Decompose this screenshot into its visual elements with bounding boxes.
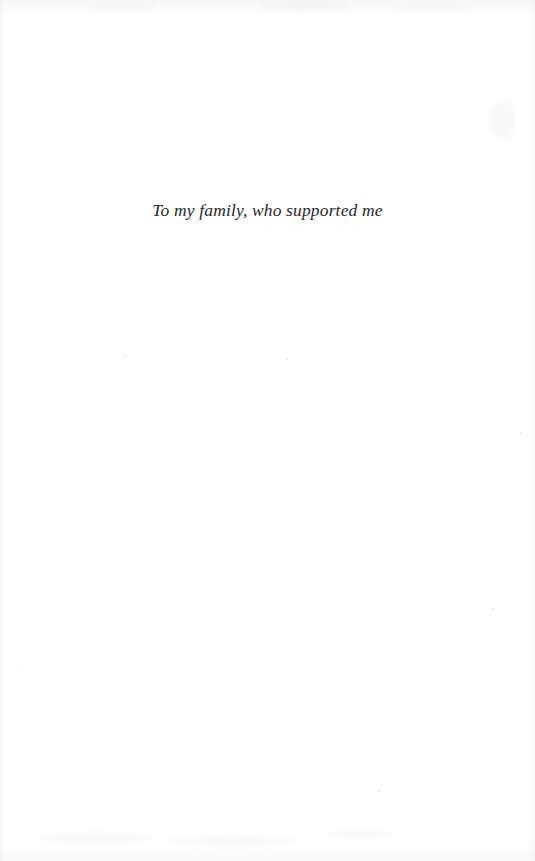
paper-speck: [492, 608, 494, 610]
paper-speck: [378, 790, 380, 792]
page-edge-shadow-top: [0, 0, 535, 14]
dedication-text: To my family, who supported me: [152, 198, 382, 222]
page-edge-shadow-right: [525, 0, 535, 861]
paper-smudge: [168, 836, 298, 846]
paper-smudge: [330, 830, 390, 839]
paper-speck: [520, 432, 522, 435]
paper-smudge: [258, 1, 354, 12]
paper-smudge: [40, 832, 150, 844]
dedication-block: To my family, who supported me: [0, 198, 535, 222]
paper-smudge: [488, 100, 516, 140]
paper-speck: [286, 358, 288, 360]
paper-smudge: [86, 2, 156, 11]
paper-speck: [124, 355, 126, 357]
paper-smudge: [392, 3, 476, 11]
page-edge-shadow-left: [0, 0, 7, 861]
scan-artifact-layer: [0, 0, 535, 861]
paper-speck: [18, 668, 20, 670]
page-edge-shadow-bottom: [0, 843, 535, 861]
book-page: To my family, who supported me: [0, 0, 535, 861]
